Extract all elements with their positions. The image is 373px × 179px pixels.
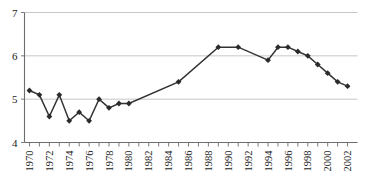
y-axis xyxy=(21,13,25,143)
x-tick-label-1976: 1976 xyxy=(84,151,95,172)
chart-plot-area: 4567 19701972197419761978198019821984198… xyxy=(0,0,373,179)
x-tick-label-1970: 1970 xyxy=(24,151,35,172)
data-point-1973 xyxy=(56,92,62,98)
data-point-1980 xyxy=(126,101,132,107)
y-tick-label-6: 6 xyxy=(12,50,18,62)
data-point-1991 xyxy=(235,44,241,50)
x-tick-label-1982: 1982 xyxy=(143,151,154,172)
x-tick-label-1978: 1978 xyxy=(104,151,115,172)
x-tick-label-1986: 1986 xyxy=(183,151,194,172)
x-tick-label-1972: 1972 xyxy=(44,151,55,172)
y-tick-label-4: 4 xyxy=(12,137,18,149)
y-tick-label-5: 5 xyxy=(12,93,18,105)
x-tick-label-1992: 1992 xyxy=(243,151,254,172)
data-series-line xyxy=(29,47,347,121)
y-tick-label-7: 7 xyxy=(12,7,18,19)
x-tick-label-1998: 1998 xyxy=(302,151,313,172)
series-line-series-1 xyxy=(29,47,347,121)
data-point-1970 xyxy=(27,88,33,94)
x-tick-label-1994: 1994 xyxy=(263,150,274,172)
x-tick-label-1980: 1980 xyxy=(123,151,134,172)
x-tick-label-1988: 1988 xyxy=(203,151,214,172)
x-tick-label-2002: 2002 xyxy=(342,151,353,172)
line-chart: 4567 19701972197419761978198019821984198… xyxy=(0,0,373,179)
data-point-2002 xyxy=(345,83,351,89)
x-tick-label-2000: 2000 xyxy=(322,151,333,172)
data-point-1972 xyxy=(46,114,52,120)
x-axis xyxy=(25,143,358,147)
data-point-1997 xyxy=(295,49,301,55)
x-tick-label-1974: 1974 xyxy=(64,150,75,172)
x-tick-label-1990: 1990 xyxy=(223,151,234,172)
data-point-1971 xyxy=(37,92,43,98)
x-tick-label-1996: 1996 xyxy=(283,151,294,172)
y-axis-tick-labels: 4567 xyxy=(12,7,18,149)
data-point-1996 xyxy=(285,44,291,50)
x-axis-tick-labels: 1970197219741976197819801982198419861988… xyxy=(24,150,353,172)
data-point-1979 xyxy=(116,101,122,107)
x-tick-label-1984: 1984 xyxy=(163,150,174,172)
